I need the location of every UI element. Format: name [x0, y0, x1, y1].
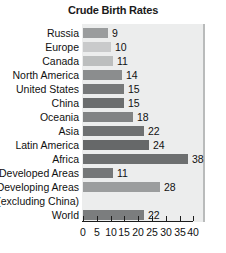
bar [83, 140, 149, 150]
bar-row-label: China [52, 96, 79, 110]
bar-value-label: 38 [192, 152, 204, 166]
x-tick-label: 40 [183, 226, 203, 239]
bar-value-label: 11 [117, 166, 128, 180]
bar [83, 84, 124, 94]
bar-row-label: (excluding China) [0, 194, 79, 208]
bar-row: United States15 [0, 82, 226, 96]
bar-value-label: 22 [148, 124, 160, 138]
bar-row-label: United States [16, 82, 79, 96]
bar [83, 126, 144, 136]
bar [83, 70, 122, 80]
bar-row: Europe10 [0, 40, 226, 54]
bar [83, 168, 113, 178]
bar-row-label: Oceania [40, 110, 79, 124]
bar [83, 112, 133, 122]
x-tick-mark [166, 216, 167, 221]
bar-value-label: 24 [153, 138, 165, 152]
bar-row-label: Asia [59, 124, 79, 138]
bar [83, 210, 144, 220]
bar-value-label: 10 [115, 40, 127, 54]
bar-row: Oceania18 [0, 110, 226, 124]
bar [83, 56, 113, 66]
bar-row: Latin America24 [0, 138, 226, 152]
x-tick-mark [124, 216, 125, 221]
bar [83, 182, 160, 192]
crude-birth-rates-chart: Crude Birth Rates Russia9Europe10Canada1… [0, 0, 226, 253]
bar [83, 154, 188, 164]
bar [83, 42, 111, 52]
bar-row-label: Developed Areas [0, 166, 79, 180]
bar-row-label: Africa [52, 152, 79, 166]
bar-row: Developed Areas11 [0, 166, 226, 180]
x-tick-mark [138, 216, 139, 221]
chart-title: Crude Birth Rates [0, 4, 226, 16]
x-tick-mark [193, 216, 194, 221]
x-axis-line [82, 221, 193, 222]
bar [83, 28, 108, 38]
bar-value-label: 9 [112, 26, 118, 40]
bar-row: (excluding China) [0, 194, 226, 208]
bar-value-label: 11 [117, 54, 128, 68]
bar-row-label: Developing Areas [0, 180, 79, 194]
x-tick-mark [152, 216, 153, 221]
x-tick-mark [111, 216, 112, 221]
bar-row: China15 [0, 96, 226, 110]
x-tick-mark [83, 216, 84, 221]
bar-value-label: 28 [164, 180, 176, 194]
bar-row-label: Russia [47, 26, 79, 40]
bar-row: Developing Areas28 [0, 180, 226, 194]
bar-row-label: World [52, 208, 79, 222]
bar-value-label: 18 [137, 110, 149, 124]
x-tick-mark [180, 216, 181, 221]
bar-row: Africa38 [0, 152, 226, 166]
bar-value-label: 22 [148, 208, 160, 222]
bar-value-label: 15 [128, 82, 140, 96]
bar-row: Russia9 [0, 26, 226, 40]
bar-row-label: Canada [42, 54, 79, 68]
bar-row-label: North America [12, 68, 79, 82]
bar-value-label: 15 [128, 96, 140, 110]
bar-row: North America14 [0, 68, 226, 82]
bar [83, 98, 124, 108]
bar-row: Canada11 [0, 54, 226, 68]
x-tick-mark [97, 216, 98, 221]
bar-row: Asia22 [0, 124, 226, 138]
bar-row-label: Latin America [15, 138, 79, 152]
bar-value-label: 14 [126, 68, 138, 82]
bar-row-label: Europe [45, 40, 79, 54]
